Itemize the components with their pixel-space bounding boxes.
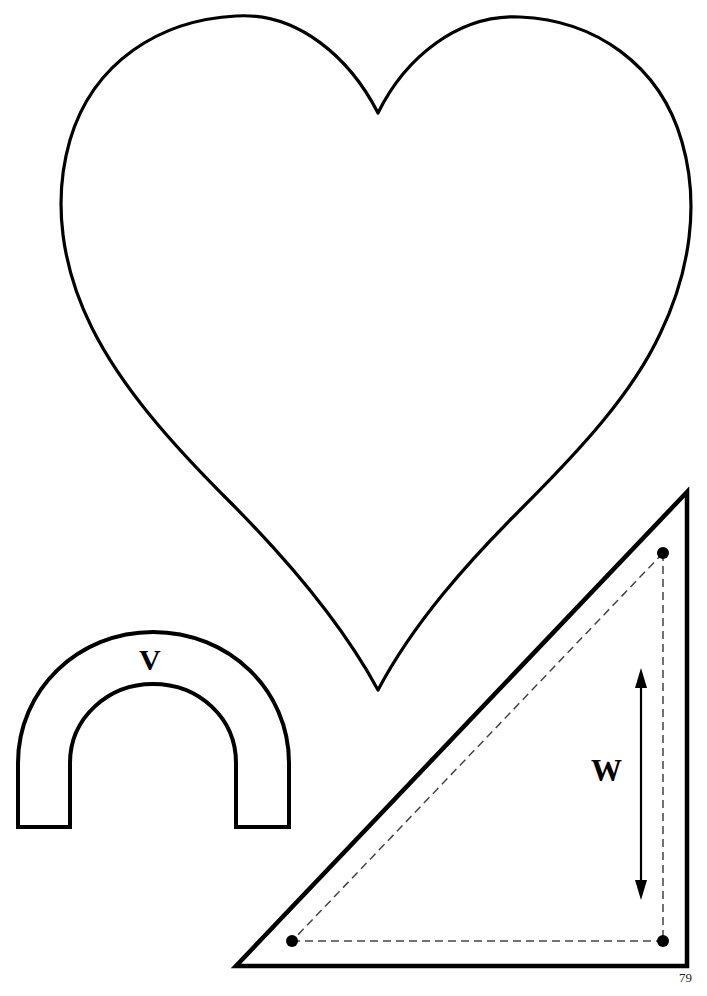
guide-point-top-dot bbox=[657, 547, 669, 559]
arch-piece-label: V bbox=[139, 645, 161, 675]
arrow-head-down-icon bbox=[635, 880, 647, 900]
pattern-page: V W 79 bbox=[0, 0, 707, 996]
triangle-pattern-piece bbox=[236, 492, 687, 966]
guide-point-bottom-left-dot bbox=[286, 935, 298, 947]
pattern-drawing-canvas bbox=[0, 0, 707, 996]
guide-point-bottom-right-dot bbox=[657, 935, 669, 947]
guide-line-hypotenuse bbox=[292, 553, 663, 941]
page-number: 79 bbox=[679, 971, 692, 984]
arrow-head-up-icon bbox=[635, 668, 647, 688]
width-dimension-arrow bbox=[635, 668, 647, 900]
triangle-piece-label: W bbox=[591, 755, 622, 786]
